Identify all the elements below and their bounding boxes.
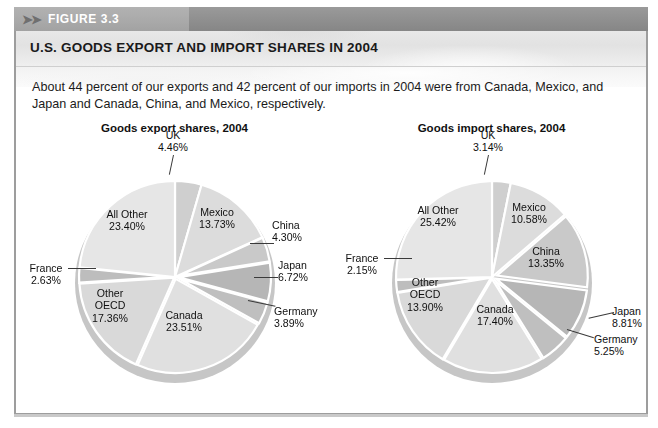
figure-description: About 44 percent of our exports and 42 p… [32,79,632,113]
figure-badge-tab: ➤➤ FIGURE 3.3 [14,7,189,31]
figure-number-label: FIGURE 3.3 [48,12,119,26]
figure-box: U.S. GOODS EXPORT AND IMPORT SHARES IN 2… [14,31,648,415]
pie-label-import-germany: Germany 5.25% [594,333,658,358]
pie-label-import-uk: UK 3.14% [453,129,523,154]
leader-import-france [384,258,412,259]
pie-label-import-all-other: All Other 25.42% [400,204,476,229]
pie-label-export-mexico: Mexico 13.73% [181,206,253,231]
pie-label-import-france: France 2.15% [334,252,390,277]
pie-label-export-canada: Canada 23.51% [149,309,219,334]
pie-label-export-germany: Germany 3.89% [274,305,340,330]
pie-label-import-other-oecd: Other OECD 13.90% [394,276,456,313]
pie-label-export-china: China 4.30% [272,219,334,244]
pie-label-export-japan: Japan 6.72% [278,259,336,284]
leader-export-japan [254,277,278,278]
pie-label-export-all-other: All Other 23.40% [89,208,165,233]
charts-container: Goods export shares, 2004 Goods import s… [16,119,646,411]
double-chevron-right-icon: ➤➤ [22,13,40,26]
pie-label-import-japan: Japan 8.81% [612,305,658,330]
leader-export-china [250,243,274,244]
leader-export-france [68,268,96,269]
pie-label-import-mexico: Mexico 10.58% [493,201,565,226]
pie-label-export-france: France 2.63% [18,262,74,287]
pie-label-import-canada: Canada 17.40% [460,303,530,328]
pie-label-export-other-oecd: Other OECD 17.36% [79,287,141,324]
figure-title: U.S. GOODS EXPORT AND IMPORT SHARES IN 2… [30,40,378,55]
pie-label-import-china: China 13.35% [513,245,579,270]
figure-root: ➤➤ FIGURE 3.3 U.S. GOODS EXPORT AND IMPO… [0,0,658,428]
pie-label-export-uk: UK 4.46% [138,129,208,154]
